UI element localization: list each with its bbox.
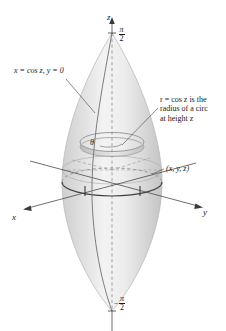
radius-annotation-line-3: at height z [160, 114, 208, 123]
radius-annotation-line-2: radius of a circ [160, 104, 208, 113]
z-bottom-tick-fraction: π 2 [119, 295, 125, 312]
z-top-tick-denominator: 2 [119, 35, 125, 43]
radius-annotation: r = cos z is the radius of a circ at hei… [160, 95, 208, 123]
radius-annotation-line-1: r = cos z is the [160, 95, 208, 104]
figure-canvas: z x y θ π 2 − π 2 x = cos z, y = 0 r = c… [0, 0, 226, 331]
theta-angle-label: θ [90, 138, 94, 147]
point-coordinates-label: (x, y, z) [166, 164, 189, 173]
z-bottom-tick-label: − π 2 [114, 295, 125, 312]
y-axis-label: y [203, 207, 207, 218]
z-axis-label: z [107, 12, 111, 23]
z-top-tick-fraction: π 2 [119, 26, 125, 43]
z-top-tick-label: π 2 [118, 26, 125, 43]
profile-curve-annotation: x = cos z, y = 0 [14, 66, 64, 75]
y-axis-arrowhead [194, 203, 203, 209]
surface-of-revolution-diagram [0, 0, 226, 331]
z-bottom-tick-denominator: 2 [119, 304, 125, 312]
x-axis-label: x [12, 212, 16, 223]
x-axis-arrowhead [23, 205, 32, 211]
